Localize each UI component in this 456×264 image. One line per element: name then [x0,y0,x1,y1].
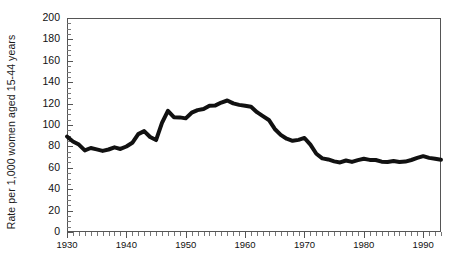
y-axis-tick-minor [67,130,71,131]
y-axis-tick-label: 0 [22,226,60,237]
y-axis-tick-major [67,39,73,40]
x-axis-tick-minor [120,232,121,236]
x-axis-tick-minor [215,232,216,236]
y-axis-tick-minor [67,93,71,94]
y-axis-tick-minor [67,29,71,30]
x-axis-tick-label: 1950 [166,240,206,250]
y-axis-tick-minor [67,66,71,67]
y-axis-tick-major [67,18,73,19]
x-axis-tick-minor [257,232,258,236]
x-axis-tick-minor [79,232,80,236]
y-axis-tick-major [67,146,73,147]
fertility-rate-line-chart: Rate per 1,000 women aged 15-44 years 02… [0,0,456,264]
y-axis-tick-label: 160 [22,55,60,66]
x-axis-tick-minor [209,232,210,236]
x-axis-tick-minor [275,232,276,236]
x-axis-tick-minor [370,232,371,236]
y-axis-tick-major [67,104,73,105]
x-axis-tick-minor [358,232,359,236]
x-axis-tick-minor [310,232,311,236]
x-axis-tick-minor [287,232,288,236]
x-axis-tick-minor [376,232,377,236]
y-axis-tick-major [67,125,73,126]
x-axis-tick-major [423,232,424,238]
y-axis-tick-label: 100 [22,119,60,130]
x-axis-tick-minor [91,232,92,236]
x-axis-tick-minor [204,232,205,236]
x-axis-tick-minor [85,232,86,236]
y-axis-tick-label: 60 [22,162,60,173]
x-axis-tick-minor [263,232,264,236]
y-axis-tick-label: 180 [22,33,60,44]
x-axis-tick-minor [417,232,418,236]
y-axis-tick-major [67,61,73,62]
y-axis-tick-label: 80 [22,140,60,151]
x-axis-tick-label: 1930 [47,240,87,250]
x-axis-tick-minor [150,232,151,236]
y-axis-tick-minor [67,173,71,174]
y-axis-tick-minor [67,221,71,222]
x-axis-tick-minor [103,232,104,236]
x-axis-tick-minor [156,232,157,236]
x-axis-tick-minor [399,232,400,236]
y-axis-tick-major [67,168,73,169]
x-axis-tick-minor [138,232,139,236]
y-axis-tick-minor [67,98,71,99]
x-axis-tick-minor [322,232,323,236]
x-axis-tick-label: 1940 [106,240,146,250]
x-axis-tick-major [245,232,246,238]
y-axis-tick-major [67,82,73,83]
y-axis-tick-minor [67,227,71,228]
y-axis-tick-minor [67,179,71,180]
x-axis-tick-minor [180,232,181,236]
x-axis-tick-minor [198,232,199,236]
y-axis-tick-minor [67,200,71,201]
y-axis-tick-label: 140 [22,76,60,87]
x-axis-tick-minor [109,232,110,236]
x-axis-tick-major [67,232,68,238]
x-axis-tick-minor [441,232,442,236]
x-axis-tick-major [186,232,187,238]
y-axis-tick-minor [67,141,71,142]
y-axis-tick-major [67,211,73,212]
plot-area-frame [67,18,441,232]
x-axis-tick-minor [411,232,412,236]
x-axis-tick-minor [73,232,74,236]
x-axis-tick-minor [227,232,228,236]
x-axis-tick-minor [251,232,252,236]
y-axis-tick-minor [67,34,71,35]
x-axis-tick-minor [97,232,98,236]
y-axis-tick-minor [67,55,71,56]
y-axis-tick-major [67,189,73,190]
y-axis-tick-label: 200 [22,12,60,23]
x-axis-tick-label: 1990 [403,240,443,250]
x-axis-tick-minor [162,232,163,236]
y-axis-tick-minor [67,152,71,153]
y-axis-tick-minor [67,77,71,78]
y-axis-tick-minor [67,109,71,110]
y-axis-tick-minor [67,23,71,24]
x-axis-tick-minor [394,232,395,236]
y-axis-tick-minor [67,88,71,89]
y-axis-tick-minor [67,162,71,163]
y-axis-tick-minor [67,205,71,206]
x-axis-tick-minor [316,232,317,236]
x-axis-tick-minor [233,232,234,236]
y-axis-tick-label: 20 [22,205,60,216]
x-axis-tick-minor [299,232,300,236]
x-axis-tick-minor [435,232,436,236]
y-axis-tick-minor [67,72,71,73]
x-axis-tick-minor [132,232,133,236]
x-axis-tick-minor [221,232,222,236]
y-axis-tick-minor [67,195,71,196]
x-axis-tick-minor [281,232,282,236]
x-axis-tick-minor [269,232,270,236]
x-axis-tick-minor [429,232,430,236]
x-axis-tick-minor [382,232,383,236]
x-axis-tick-minor [174,232,175,236]
y-axis-tick-minor [67,184,71,185]
x-axis-tick-major [364,232,365,238]
y-axis-tick-label: 40 [22,183,60,194]
y-axis-tick-minor [67,157,71,158]
y-axis-tick-minor [67,50,71,51]
